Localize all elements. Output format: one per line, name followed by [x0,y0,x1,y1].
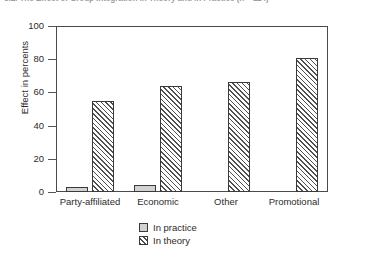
y-axis-tick-label: 20 [10,153,44,164]
legend-item: In practice [139,222,229,233]
y-axis-tick [48,26,56,27]
y-axis-tick [48,59,56,60]
chart-legend: In practiceIn theory [0,222,368,246]
legend-label: In theory [153,235,190,246]
y-axis-tick [48,159,56,160]
legend-swatch-practice [139,223,148,232]
y-axis-tick-label: 100 [10,20,44,31]
bar-theory [296,58,318,192]
x-axis-label: Economic [124,196,192,207]
y-axis-tick [48,192,56,193]
y-axis-tick [48,92,56,93]
bar-theory [160,86,182,192]
y-axis-tick-label: 0 [10,186,44,197]
bar-theory [92,101,114,192]
x-axis-label: Promotional [260,196,328,207]
bar-theory [228,82,250,192]
legend-swatch-theory [139,236,148,245]
x-axis-label: Other [192,196,260,207]
legend-item: In theory [139,235,229,246]
y-axis-tick [48,126,56,127]
y-axis-tick-label: 60 [10,86,44,97]
y-axis-tick-label: 40 [10,120,44,131]
legend-label: In practice [153,222,197,233]
x-axis-label: Party-affiliated [56,196,124,207]
bar-practice [134,185,156,192]
y-axis-tick-label: 80 [10,53,44,64]
bar-chart-figure: Effect in percents Party-affiliatedEcono… [0,0,368,264]
bar-practice [66,187,88,192]
